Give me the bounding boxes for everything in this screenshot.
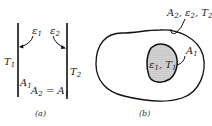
area-relation-label: A2 = A1 bbox=[30, 85, 69, 98]
arrowhead-icon bbox=[19, 45, 24, 49]
emissivity-2-label: ε2 bbox=[50, 25, 60, 38]
radiation-diagram: ε1 ε2 T1 T2 A1 A2 = A1 (a) A2, ε2, T2 A1… bbox=[0, 0, 212, 126]
temperature-1-label: T1 bbox=[4, 56, 15, 69]
arrowhead-icon bbox=[61, 45, 66, 49]
outer-surface-label: A2, ε2, T2 bbox=[166, 7, 212, 20]
area-1-label: A1 bbox=[19, 77, 32, 90]
caption-a: (a) bbox=[35, 109, 46, 118]
panel-a: ε1 ε2 T1 T2 A1 A2 = A1 (a) bbox=[4, 23, 82, 118]
panel-b: A2, ε2, T2 A1 ε1, T1 (b) bbox=[96, 7, 212, 118]
emissivity-1-label: ε1 bbox=[32, 25, 42, 38]
inner-surface-leader bbox=[177, 56, 185, 65]
caption-b: (b) bbox=[139, 109, 150, 118]
inner-area-label: A1 bbox=[185, 45, 198, 58]
temperature-2-label: T2 bbox=[70, 66, 82, 79]
